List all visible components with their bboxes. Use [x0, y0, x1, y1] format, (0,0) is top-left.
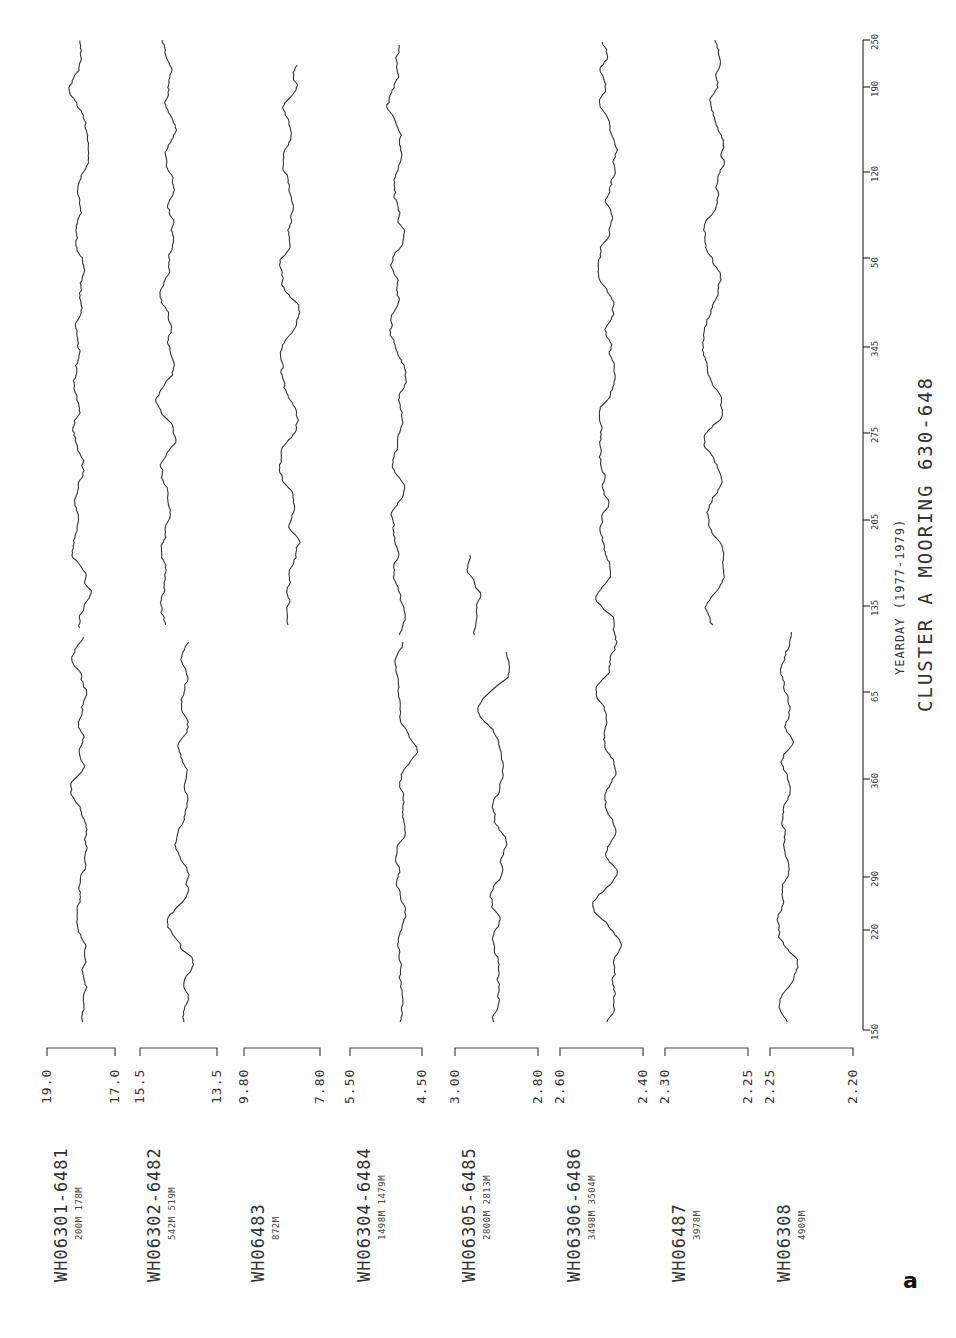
series-trace [395, 642, 418, 1022]
series-name-label: WH06308 [774, 1203, 794, 1282]
series-name-label: WH06305-6485 [459, 1147, 479, 1282]
scale-top-value: 2.60 [552, 1069, 567, 1104]
series-depth-label: 3498M 3504M [587, 1175, 597, 1240]
scale-bracket [560, 1048, 643, 1056]
series-trace [777, 632, 798, 1022]
scale-bracket [244, 1048, 320, 1056]
scale-bracket [770, 1048, 853, 1056]
scale-top-value: 2.30 [657, 1069, 672, 1104]
scale-bracket [455, 1048, 538, 1056]
series-depth-label: 200M 178M [74, 1187, 84, 1240]
yearday-axis [863, 40, 870, 1030]
scale-top-value: 9.80 [236, 1069, 251, 1104]
chart-canvas [0, 0, 956, 1338]
scale-top-value: 3.00 [447, 1069, 462, 1104]
series-trace [279, 65, 300, 625]
scale-bottom-value: 2.80 [530, 1069, 545, 1104]
scale-bottom-value: 2.40 [635, 1069, 650, 1104]
scale-bottom-value: 4.50 [414, 1069, 429, 1104]
series-name-label: WH06302-6482 [144, 1147, 164, 1282]
series-trace [156, 40, 177, 625]
data-traces [69, 40, 798, 1022]
series-trace [593, 42, 622, 1022]
x-tick-label: 290 [870, 871, 880, 887]
scale-bracket [350, 1048, 422, 1056]
x-tick-label: 150 [870, 1024, 880, 1040]
x-tick-label: 65 [870, 691, 880, 702]
scale-bottom-value: 13.5 [209, 1069, 224, 1104]
series-trace [387, 45, 407, 635]
series-trace [167, 642, 193, 1022]
scale-top-value: 2.25 [762, 1069, 777, 1104]
series-trace [467, 555, 481, 635]
x-tick-label: 120 [870, 166, 880, 182]
x-tick-label: 220 [870, 924, 880, 940]
series-name-label: WH06306-6486 [564, 1147, 584, 1282]
x-tick-label: 135 [870, 600, 880, 616]
x-tick-label: 250 [870, 34, 880, 50]
scale-bottom-value: 7.80 [312, 1069, 327, 1104]
x-tick-label: 275 [870, 427, 880, 443]
series-depth-label: 2800M 2813M [482, 1175, 492, 1240]
scale-top-value: 5.50 [342, 1069, 357, 1104]
series-name-label: WH06301-6481 [51, 1147, 71, 1282]
series-depth-label: 1498M 1479M [377, 1175, 387, 1240]
chart-title: CLUSTER A MOORING 630-648 [914, 376, 936, 712]
series-name-label: WH06304-6484 [354, 1147, 374, 1282]
series-trace [702, 40, 724, 625]
scale-bracket [47, 1048, 115, 1056]
scale-bottom-value: 17.0 [107, 1069, 122, 1104]
figure-letter: a [903, 1268, 918, 1293]
series-trace [478, 652, 509, 1022]
series-trace [69, 41, 91, 629]
x-axis-label: YEARDAY (1977-1979) [893, 519, 907, 675]
x-tick-label: 205 [870, 514, 880, 530]
series-depth-label: 872M [271, 1216, 281, 1240]
x-tick-label: 360 [870, 773, 880, 789]
x-tick-label: 50 [870, 257, 880, 268]
series-depth-label: 3978M [692, 1210, 702, 1240]
series-depth-label: 4909M [797, 1210, 807, 1240]
series-name-label: WH06487 [669, 1203, 689, 1282]
scale-brackets [47, 1048, 853, 1056]
scale-top-value: 15.5 [132, 1069, 147, 1104]
scale-top-value: 19.0 [39, 1069, 54, 1104]
series-name-label: WH06483 [248, 1203, 268, 1282]
series-trace [71, 637, 87, 1022]
series-depth-label: 542M 519M [167, 1187, 177, 1240]
scale-bottom-value: 2.25 [740, 1069, 755, 1104]
x-tick-label: 345 [870, 341, 880, 357]
scale-bracket [665, 1048, 748, 1056]
scale-bottom-value: 2.20 [845, 1069, 860, 1104]
x-tick-label: 190 [870, 81, 880, 97]
scale-bracket [140, 1048, 217, 1056]
